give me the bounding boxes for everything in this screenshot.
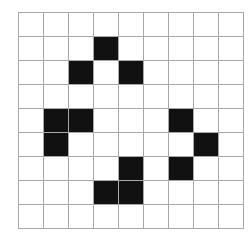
empty-cell [219,85,244,109]
empty-cell [69,157,94,181]
empty-cell [219,37,244,61]
empty-cell [119,109,144,133]
filled-cell [119,181,144,205]
empty-cell [94,13,119,37]
empty-cell [219,13,244,37]
empty-cell [69,85,94,109]
empty-cell [194,85,219,109]
empty-cell [219,181,244,205]
filled-cell [94,37,119,61]
filled-cell [69,61,94,85]
empty-cell [19,85,44,109]
empty-cell [219,205,244,229]
empty-cell [194,205,219,229]
empty-cell [194,61,219,85]
empty-cell [44,205,69,229]
empty-cell [169,61,194,85]
empty-cell [194,181,219,205]
empty-cell [69,205,94,229]
empty-cell [144,13,169,37]
cell-grid [18,12,244,229]
empty-cell [69,181,94,205]
empty-cell [44,37,69,61]
empty-cell [19,181,44,205]
empty-cell [144,205,169,229]
empty-cell [169,37,194,61]
empty-cell [19,13,44,37]
empty-cell [94,61,119,85]
empty-cell [194,13,219,37]
empty-cell [94,109,119,133]
empty-cell [144,37,169,61]
empty-cell [144,109,169,133]
filled-cell [94,181,119,205]
empty-cell [144,181,169,205]
empty-cell [94,133,119,157]
empty-cell [119,133,144,157]
empty-cell [144,133,169,157]
empty-cell [44,13,69,37]
empty-cell [19,157,44,181]
empty-cell [144,61,169,85]
empty-cell [19,109,44,133]
empty-cell [119,13,144,37]
empty-cell [144,85,169,109]
empty-cell [169,181,194,205]
empty-cell [44,85,69,109]
empty-cell [19,61,44,85]
empty-cell [219,109,244,133]
empty-cell [69,13,94,37]
empty-cell [44,181,69,205]
empty-cell [194,109,219,133]
empty-cell [94,157,119,181]
empty-cell [19,37,44,61]
empty-cell [69,37,94,61]
filled-cell [169,157,194,181]
empty-cell [144,157,169,181]
filled-cell [44,109,69,133]
empty-cell [119,205,144,229]
empty-cell [194,157,219,181]
empty-cell [219,157,244,181]
empty-cell [219,133,244,157]
empty-cell [169,205,194,229]
empty-cell [19,133,44,157]
filled-cell [69,109,94,133]
empty-cell [94,205,119,229]
empty-cell [194,37,219,61]
empty-cell [44,61,69,85]
empty-cell [169,85,194,109]
empty-cell [119,85,144,109]
empty-cell [169,13,194,37]
empty-cell [219,61,244,85]
empty-cell [19,205,44,229]
empty-cell [94,85,119,109]
empty-cell [69,133,94,157]
empty-cell [44,157,69,181]
filled-cell [119,157,144,181]
empty-cell [119,37,144,61]
empty-cell [169,133,194,157]
filled-cell [169,109,194,133]
filled-cell [119,61,144,85]
filled-cell [194,133,219,157]
filled-cell [44,133,69,157]
